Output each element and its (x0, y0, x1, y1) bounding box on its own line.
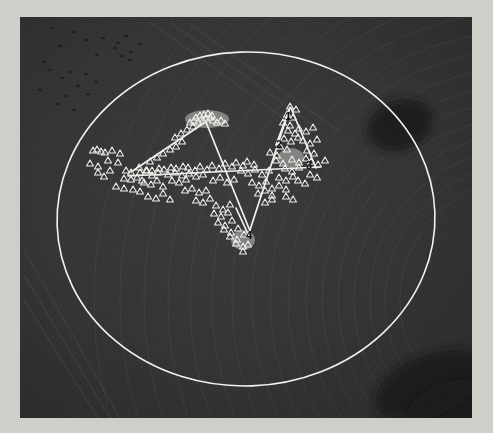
screenshot-root: 1234 (0, 0, 493, 433)
marker-label-3: 3 (306, 159, 312, 171)
aerial-photo-panel: 1234 (20, 17, 472, 418)
marker-label-2: 2 (276, 138, 282, 150)
photo-vignette (20, 17, 472, 418)
overlay-canvas: 1234 (20, 17, 472, 418)
marker-label-4: 4 (246, 229, 253, 241)
marker-label-1: 1 (285, 110, 291, 122)
